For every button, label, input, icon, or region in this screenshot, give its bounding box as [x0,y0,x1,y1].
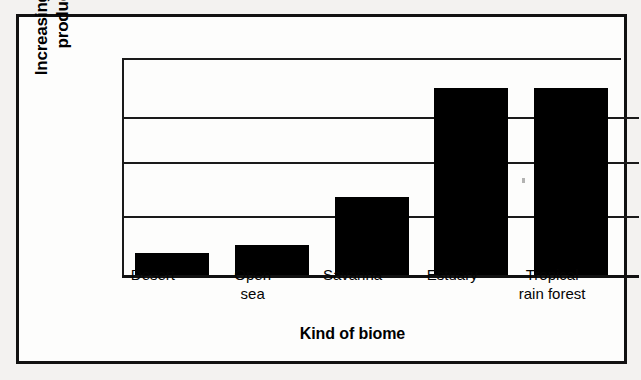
y-axis-title-text: Increasing primary productivity [32,0,72,75]
x-tick-label-estuary: Estuary [402,265,502,313]
plot-area [122,58,621,275]
scan-artifact-speck [522,178,525,183]
x-tick-label-desert: Desert [103,265,203,313]
y-axis-line [122,58,124,278]
x-tick-label-open-sea: Open sea [203,265,303,313]
gridline-4 [122,58,621,60]
bar-savanna [335,197,409,275]
y-axis-title: Increasing primary productivity [31,0,89,106]
bar-tropical-rain-forest [534,88,608,275]
x-tick-label-savanna: Savanna [303,265,403,313]
x-axis-tick-labels: Desert Open sea Savanna Estuary Tropical… [103,265,602,313]
x-tick-label-tropical-rain-forest: Tropical rain forest [502,265,602,313]
bar-estuary [434,88,508,275]
x-axis-title: Kind of biome [103,325,602,343]
